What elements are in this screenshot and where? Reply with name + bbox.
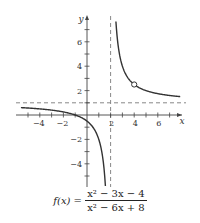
x-tick-label: −4 bbox=[33, 119, 45, 128]
x-tick-label: 2 bbox=[109, 119, 114, 128]
x-axis-label: x bbox=[179, 116, 184, 126]
y-axis-label: y bbox=[77, 14, 84, 24]
axes bbox=[16, 15, 182, 187]
y-tick-label: −2 bbox=[70, 135, 82, 144]
right-branch-curve bbox=[116, 21, 180, 96]
formula-denominator: x² − 6x + 8 bbox=[85, 201, 147, 214]
formula-lhs: f(x) = bbox=[53, 195, 82, 206]
y-tick-label: 4 bbox=[77, 62, 82, 71]
x-tick-label: 6 bbox=[156, 119, 161, 128]
x-tick-label: 4 bbox=[133, 119, 138, 128]
function-graph: −4−2246−4−2246xy bbox=[0, 0, 200, 190]
x-tick-label: −2 bbox=[57, 119, 69, 128]
y-tick-label: 6 bbox=[77, 38, 82, 47]
formula-numerator: x² − 3x − 4 bbox=[85, 187, 147, 201]
y-tick-label: 2 bbox=[77, 87, 82, 96]
y-tick-label: −4 bbox=[70, 160, 82, 169]
y-axis-arrow bbox=[85, 15, 89, 20]
asymptotes bbox=[16, 16, 186, 187]
hole-marker bbox=[132, 82, 137, 87]
curves bbox=[21, 21, 180, 186]
formula-fraction: x² − 3x − 4 x² − 6x + 8 bbox=[85, 187, 147, 214]
function-formula: f(x) = x² − 3x − 4 x² − 6x + 8 bbox=[0, 187, 200, 214]
tick-labels: −4−2246−4−2246xy bbox=[33, 14, 185, 169]
